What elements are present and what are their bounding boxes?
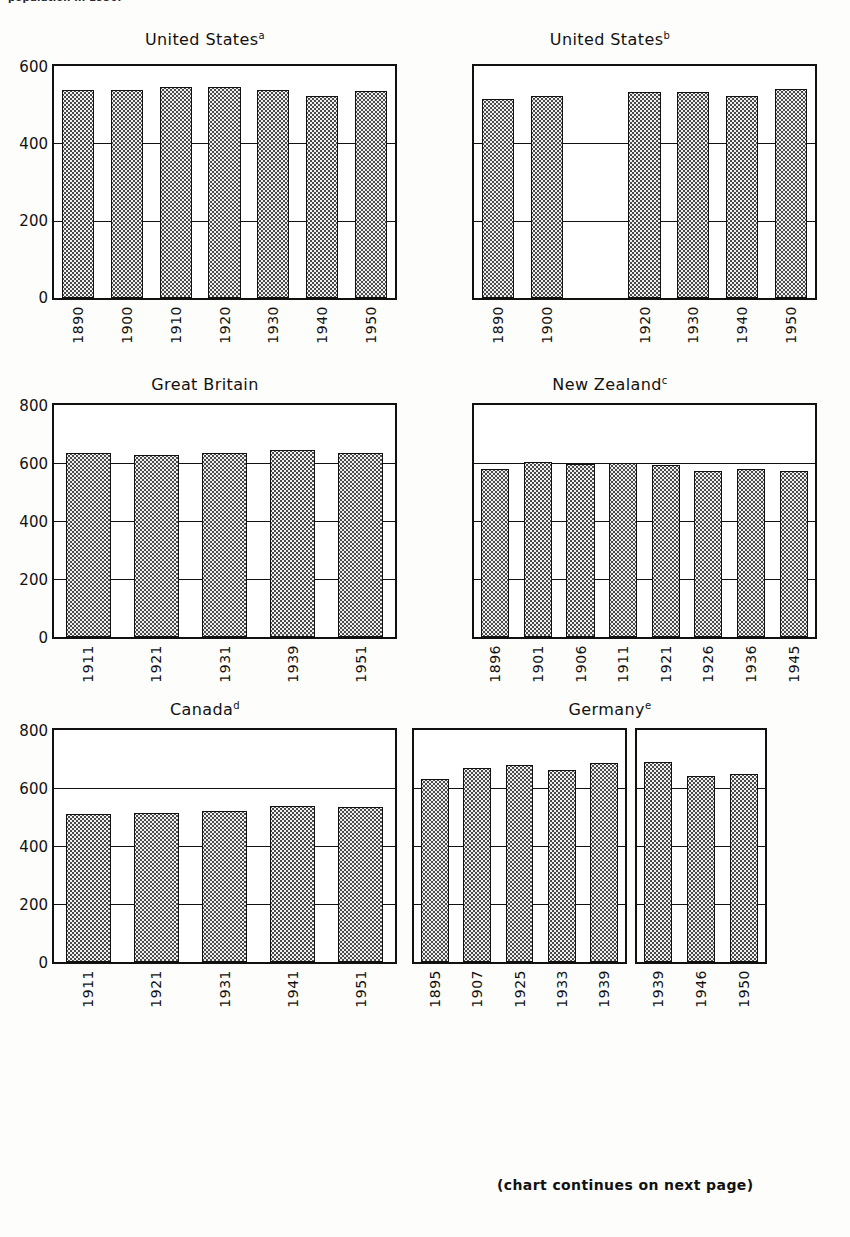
x-tick-label: 1921 [148,645,164,683]
bar [481,469,509,637]
x-axis-canada: 19111921193119411951 [52,970,397,1040]
bar [531,96,563,298]
x-tick-label: 1931 [217,645,233,683]
plot-frame-united-states-b [472,64,817,300]
x-tick-label: 1911 [80,970,96,1008]
plot-frame-germany-left [412,728,627,964]
x-tick-label: 1939 [285,645,301,683]
panel-title-superscript: d [233,700,240,711]
bar [270,806,315,962]
panel-great-britain: Great Britain 800 600 400 200 0 19111921… [0,375,410,705]
bar [609,463,637,637]
x-tick-label: 1895 [427,970,443,1008]
panel-title-text: United States [145,30,259,49]
bar [482,99,514,298]
panel-title-superscript: e [645,700,652,711]
panel-germany: Germanye 18951907192519331939 1939194619… [430,700,850,1040]
y-tick-label: 800 [0,399,48,414]
panel-canada: Canadad 800 600 400 200 0 19111921193119… [0,700,410,1040]
bar [306,96,338,298]
panel-united-states-b: United Statesb 189019001920193019401950 [430,30,850,380]
top-caption-fragment: population in 1950. [8,0,122,4]
bar [687,776,715,962]
y-tick-label: 0 [0,956,48,971]
footer-note: (chart continues on next page) [497,1177,754,1193]
x-tick-label: 1890 [490,306,506,344]
x-tick-label: 1911 [80,645,96,683]
bar [355,91,387,298]
panel-title-superscript: b [663,30,670,41]
panel-title-text: Germany [569,700,645,719]
plot-frame-germany-right [635,728,767,964]
x-tick-label: 1900 [119,306,135,344]
panel-title-superscript: c [662,375,668,386]
x-tick-label: 1900 [539,306,555,344]
x-tick-label: 1940 [314,306,330,344]
panel-title-text: Canada [170,700,233,719]
x-tick-label: 1951 [353,970,369,1008]
bar [775,89,807,298]
bar [134,455,179,637]
x-tick-label: 1941 [285,970,301,1008]
x-tick-label: 1901 [530,645,546,683]
x-tick-label: 1925 [512,970,528,1008]
x-tick-label: 1926 [700,645,716,683]
bar [338,807,383,962]
panel-title-great-britain: Great Britain [0,375,410,394]
panel-new-zealand: New Zealandc 189619011906191119211926193… [430,375,850,705]
x-tick-label: 1896 [487,645,503,683]
bar [726,96,758,298]
bar [421,779,449,962]
panel-title-text: New Zealand [552,375,662,394]
panel-united-states-a: United Statesa 600 400 200 0 18901900191… [0,30,410,380]
bar [730,774,758,962]
x-tick-label: 1936 [743,645,759,683]
x-tick-label: 1931 [217,970,233,1008]
x-tick-label: 1921 [658,645,674,683]
y-tick-label: 200 [0,573,48,588]
bar [338,453,383,637]
bar [160,87,192,298]
plot-frame-united-states-a [52,64,397,300]
bar [677,92,709,298]
bar [66,453,111,637]
bar [694,471,722,637]
bar [270,450,315,637]
bar [644,762,672,962]
x-tick-label: 1946 [693,970,709,1008]
bar [202,811,247,962]
bar [548,770,576,962]
bar [506,765,534,962]
x-tick-label: 1911 [615,645,631,683]
bar [257,90,289,298]
bar [652,465,680,637]
bar [62,90,94,298]
plot-frame-canada [52,728,397,964]
bar [463,768,491,962]
x-axis-united-states-a: 1890190019101920193019401950 [52,306,397,376]
y-tick-label: 600 [0,782,48,797]
x-tick-label: 1910 [168,306,184,344]
bar [202,453,247,637]
plot-frame-great-britain [52,403,397,639]
x-axis-united-states-b: 189019001920193019401950 [472,306,817,376]
panel-title-text: United States [550,30,664,49]
x-tick-label: 1950 [363,306,379,344]
bar [208,87,240,298]
grid-line [54,788,395,789]
chart-page: population in 1950. United Statesa 600 4… [0,0,850,1237]
x-tick-label: 1939 [650,970,666,1008]
y-tick-label: 0 [0,631,48,646]
bar [590,763,618,962]
bar [628,92,660,298]
x-tick-label: 1890 [70,306,86,344]
bar [111,90,143,298]
x-tick-label: 1940 [734,306,750,344]
x-tick-label: 1907 [469,970,485,1008]
y-tick-label: 0 [0,291,48,306]
panel-title-superscript: a [259,30,266,41]
y-tick-label: 200 [0,214,48,229]
bar [524,462,552,637]
y-tick-label: 200 [0,898,48,913]
y-tick-label: 400 [0,515,48,530]
